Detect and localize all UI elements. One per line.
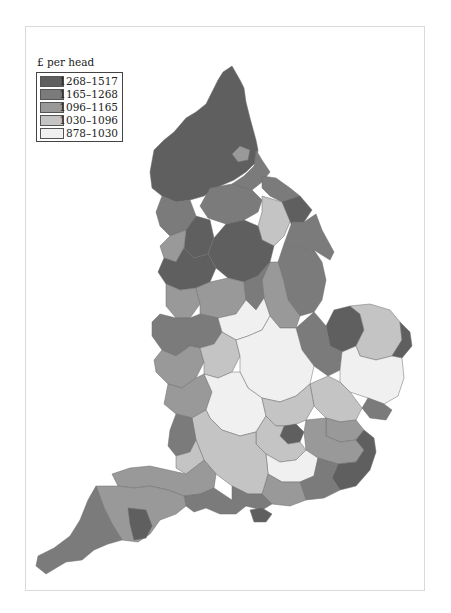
legend-label: 1165–1268 bbox=[59, 88, 118, 100]
map-region-north-yorks-west bbox=[200, 184, 262, 224]
legend-label: 1268–1517 bbox=[59, 75, 118, 87]
legend-swatch bbox=[40, 128, 64, 139]
legend: 1268–1517 1165–1268 1096–1165 1030–1096 … bbox=[36, 72, 123, 142]
legend-item: 1268–1517 bbox=[40, 76, 120, 88]
legend-label: 1030–1096 bbox=[59, 114, 118, 126]
legend-item: 1030–1096 bbox=[40, 115, 120, 127]
legend-item: 1165–1268 bbox=[40, 89, 120, 101]
legend-item: 878–1030 bbox=[40, 128, 120, 140]
legend-label: 878–1030 bbox=[66, 127, 118, 139]
legend-title: £ per head bbox=[37, 56, 94, 68]
map-region-isle-of-wight bbox=[250, 508, 272, 522]
legend-item: 1096–1165 bbox=[40, 102, 120, 114]
legend-label: 1096–1165 bbox=[59, 101, 118, 113]
